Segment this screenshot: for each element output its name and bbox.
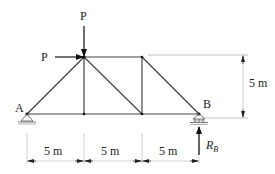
truss-members — [27, 57, 199, 114]
reaction-label: RB — [205, 138, 218, 154]
vertical-dimension-label: 5 m — [249, 76, 268, 90]
span-label-3: 5 m — [159, 144, 178, 158]
span-label-2: 5 m — [101, 144, 120, 158]
node-label-b: B — [203, 97, 211, 111]
center-diagonal — [84, 57, 142, 114]
vertical-dimension — [148, 55, 248, 118]
vertical-load-label: P — [80, 9, 87, 23]
node-label-a: A — [15, 101, 24, 115]
span-label-1: 5 m — [44, 144, 63, 158]
right-diagonal — [142, 57, 199, 114]
left-diagonal — [27, 57, 84, 114]
truss-diagram: P P A B RB 5 m 5 m 5 m 5 m — [0, 0, 275, 174]
horizontal-load-label: P — [41, 50, 48, 64]
